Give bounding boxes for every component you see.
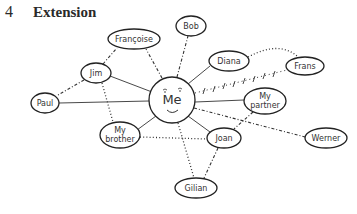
node-gilian: Gilian xyxy=(175,178,217,198)
node-label: Werner xyxy=(312,134,342,143)
node-label: Diana xyxy=(217,57,240,66)
node-me: Me xyxy=(149,77,195,123)
node-my-partner: My partner xyxy=(244,88,286,114)
node-francoise: Françoise xyxy=(108,29,160,49)
edge-me-gilian xyxy=(178,123,194,178)
edge-me-jim xyxy=(110,76,152,92)
node-label-line2: brother xyxy=(105,135,135,144)
node-label-line1: My xyxy=(114,126,126,135)
edge-joan-gilian xyxy=(204,148,218,178)
node-label-line1: My xyxy=(259,92,271,101)
node-my-brother: My brother xyxy=(100,122,140,148)
edge-jim-paul xyxy=(58,80,84,95)
node-joan: Joan xyxy=(207,128,241,148)
node-label: Jim xyxy=(89,69,103,78)
edge-me-francoise xyxy=(146,49,162,78)
node-label-line2: partner xyxy=(250,101,280,110)
node-label: Joan xyxy=(214,134,232,143)
node-label: Gilian xyxy=(185,184,208,193)
node-frans: Frans xyxy=(286,57,324,75)
edge-me-bob xyxy=(177,36,188,77)
edge-me-diana xyxy=(188,66,210,84)
edge-my-partner-joan xyxy=(234,112,253,129)
node-label: Bob xyxy=(183,22,198,31)
node-label: Françoise xyxy=(115,35,153,44)
edge-diana-frans xyxy=(248,49,298,58)
node-bob: Bob xyxy=(176,16,206,36)
edge-me-joan xyxy=(188,116,210,132)
node-werner: Werner xyxy=(305,128,347,148)
edge-me-paul xyxy=(59,101,149,103)
node-label: Frans xyxy=(294,62,315,71)
edge-jim-my-brother xyxy=(102,83,113,122)
edge-me-my-brother xyxy=(137,116,156,130)
node-diana: Diana xyxy=(209,51,249,71)
node-label: Me xyxy=(162,92,181,107)
edge-jim-francoise xyxy=(103,48,117,64)
relationship-diagram: Françoise Bob Jim Diana Frans Paul My pa… xyxy=(0,0,357,214)
node-paul: Paul xyxy=(31,93,59,113)
edge-me-my-partner xyxy=(195,100,244,102)
node-jim: Jim xyxy=(81,63,111,83)
edge-my-brother-joan xyxy=(140,137,207,139)
node-label: Paul xyxy=(37,99,54,108)
